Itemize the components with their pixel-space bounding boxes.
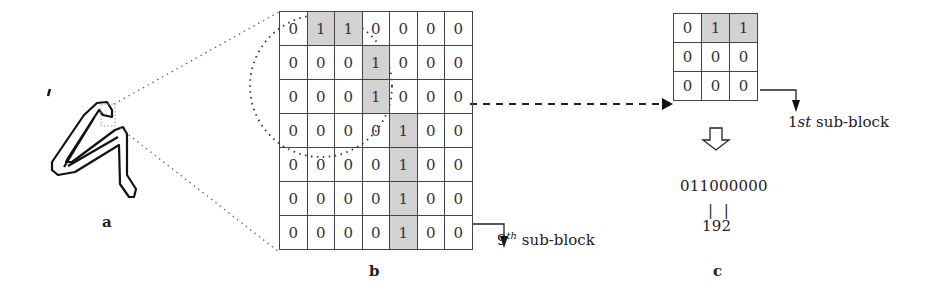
- grid-cell: 1: [362, 80, 390, 114]
- grid-cell: 0: [417, 182, 445, 216]
- first-sub-block-caption: 1st sub-block: [788, 113, 889, 131]
- arrow-head-icon: [662, 98, 673, 110]
- grid-cell: 0: [280, 216, 308, 250]
- grid-cell: 0: [445, 216, 473, 250]
- grid-cell: 0: [417, 216, 445, 250]
- grid-cell: 0: [417, 46, 445, 80]
- grid-cell: 0: [417, 148, 445, 182]
- panel-label-a: a: [102, 213, 112, 231]
- grid-row: 0000100: [280, 114, 473, 148]
- grid-cell: 0: [335, 114, 363, 148]
- grid-row: 0000100: [280, 182, 473, 216]
- grid-cell: 0: [335, 80, 363, 114]
- grid-cell: 0: [362, 12, 390, 46]
- grid-cell: 0: [730, 72, 758, 101]
- grid-cell: 1: [390, 182, 418, 216]
- grid-3x3: 011000000: [673, 13, 758, 101]
- zoom-line-top: [114, 12, 279, 104]
- grid-cell: 1: [702, 14, 730, 43]
- grid-cell: 0: [335, 216, 363, 250]
- grid-cell: 0: [445, 182, 473, 216]
- grid-cell: 0: [417, 12, 445, 46]
- grid-row: 0001000: [280, 80, 473, 114]
- ninth-sub-block-caption: 9th sub-block: [497, 230, 595, 249]
- grid-cell: 0: [417, 114, 445, 148]
- zoom-line-bottom: [120, 128, 279, 252]
- grid-cell: 0: [362, 216, 390, 250]
- grid-cell: 0: [702, 72, 730, 101]
- decimal-value: 192: [702, 217, 731, 235]
- caption-text: sub-block: [517, 231, 595, 249]
- grid-cell: 0: [335, 46, 363, 80]
- grid-cell: 0: [307, 46, 335, 80]
- grid-cell: 0: [280, 182, 308, 216]
- down-arrow-icon: [792, 100, 800, 112]
- grid-cell: 1: [307, 12, 335, 46]
- panel-label-b: b: [369, 262, 380, 280]
- grid-cell: 0: [280, 114, 308, 148]
- grid-cell: 0: [280, 46, 308, 80]
- handwritten-digit: [48, 89, 136, 197]
- grid-cell: 0: [417, 80, 445, 114]
- grid-cell: 0: [307, 182, 335, 216]
- grid-cell: 1: [390, 148, 418, 182]
- grid-cell: 0: [445, 46, 473, 80]
- grid-row: 0001000: [280, 46, 473, 80]
- grid-row: 000: [674, 72, 758, 101]
- grid-cell: 0: [674, 72, 702, 101]
- grid-cell: 0: [445, 148, 473, 182]
- grid-row: 0000100: [280, 148, 473, 182]
- grid-cell: 0: [674, 14, 702, 43]
- hollow-down-arrow-icon: [703, 128, 729, 150]
- grid-cell: 0: [445, 114, 473, 148]
- grid-cell: 0: [307, 216, 335, 250]
- caption-number: 1: [788, 113, 798, 131]
- grid-cell: 0: [445, 80, 473, 114]
- grid-cell: 0: [445, 12, 473, 46]
- grid-cell: 0: [307, 114, 335, 148]
- grid-cell: 0: [390, 12, 418, 46]
- caption-number: 9: [497, 231, 507, 249]
- grid-cell: 0: [307, 80, 335, 114]
- grid-cell: 0: [730, 43, 758, 72]
- grid-cell: 1: [335, 12, 363, 46]
- grid-cell: 0: [362, 148, 390, 182]
- grid-cell: 0: [702, 43, 730, 72]
- panel-label-c: c: [713, 262, 722, 280]
- grid-cell: 1: [390, 216, 418, 250]
- grid-7x7: 0110000000100000010000000100000010000001…: [279, 11, 473, 250]
- grid-cell: 0: [280, 148, 308, 182]
- grid-cell: 0: [674, 43, 702, 72]
- grid-row: 0110000: [280, 12, 473, 46]
- grid-cell: 0: [362, 182, 390, 216]
- grid-cell: 0: [280, 12, 308, 46]
- binary-code: 011000000: [680, 177, 768, 195]
- grid-cell: 0: [307, 148, 335, 182]
- first-callout-line: [760, 90, 796, 104]
- grid-cell: 1: [390, 114, 418, 148]
- grid-row: 011: [674, 14, 758, 43]
- grid-cell: 0: [335, 182, 363, 216]
- grid-cell: 0: [335, 148, 363, 182]
- caption-suffix: st: [798, 113, 812, 131]
- caption-suffix: th: [507, 230, 517, 241]
- grid-cell: 0: [390, 80, 418, 114]
- grid-cell: 0: [390, 46, 418, 80]
- caption-text: sub-block: [811, 113, 889, 131]
- grid-row: 0000100: [280, 216, 473, 250]
- grid-cell: 1: [730, 14, 758, 43]
- grid-row: 000: [674, 43, 758, 72]
- grid-cell: 0: [280, 80, 308, 114]
- grid-cell: 0: [362, 114, 390, 148]
- grid-cell: 1: [362, 46, 390, 80]
